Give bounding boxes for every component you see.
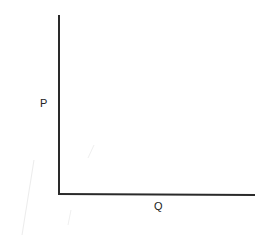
- scan-artifact-line: [68, 210, 71, 225]
- x-axis-line: [58, 194, 255, 195]
- diagram-canvas: P Q: [0, 0, 273, 239]
- scan-artifact-line: [88, 145, 94, 158]
- y-axis-label: P: [40, 98, 47, 109]
- x-axis-label: Q: [154, 201, 163, 212]
- axes-graphic: [0, 0, 273, 239]
- scan-artifact-line: [22, 160, 34, 235]
